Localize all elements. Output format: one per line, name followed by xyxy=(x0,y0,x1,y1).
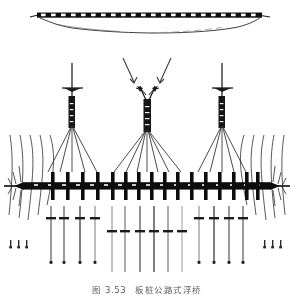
figure-caption-number: 图 3.53 xyxy=(92,285,126,295)
figure-drawing xyxy=(0,0,294,297)
pylon-left-shaft xyxy=(69,96,76,128)
figure-caption-title: 板桩公路式浮桥 xyxy=(135,285,202,295)
deck-slab xyxy=(37,13,262,18)
pylon-center-shaft xyxy=(144,99,152,132)
pylon-right-shaft xyxy=(219,96,226,128)
figure-caption: 图 3.53板桩公路式浮桥 xyxy=(0,283,294,295)
